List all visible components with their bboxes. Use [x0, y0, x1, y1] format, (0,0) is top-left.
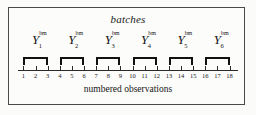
batch-symbol-superscript: bm	[221, 30, 228, 36]
batch-symbol-superscript: bm	[185, 30, 192, 36]
batch-symbol: Ybm6	[199, 30, 235, 52]
batch-symbol-subscript: 1	[39, 42, 42, 49]
batch-symbol-subscript: 5	[184, 42, 187, 49]
axis-tick-label: 18	[223, 72, 237, 80]
batch-symbol-subscript: 6	[221, 42, 224, 49]
batch-symbol-base: Ybm1	[32, 33, 39, 47]
batch-symbol-base: Ybm4	[141, 33, 148, 47]
batch-symbol-subscript: 3	[111, 42, 114, 49]
batch-symbol-superscript: bm	[112, 30, 119, 36]
batch-bracket	[60, 57, 84, 65]
batch-symbol: Ybm1	[18, 30, 54, 52]
figure-title: batches	[0, 13, 256, 25]
batch-bracket	[133, 57, 157, 65]
batch-symbol-base: Ybm5	[177, 33, 184, 47]
batch-symbol-superscript: bm	[148, 30, 155, 36]
batch-bracket	[205, 57, 229, 65]
batch-symbol-subscript: 2	[75, 42, 78, 49]
batch-symbol: Ybm3	[90, 30, 126, 52]
axis-caption: numbered observations	[0, 84, 256, 95]
batch-symbol: Ybm5	[163, 30, 199, 52]
batch-symbol-superscript: bm	[39, 30, 46, 36]
batch-bracket	[96, 57, 120, 65]
batch-symbol-subscript: 4	[148, 42, 151, 49]
batch-symbol-base: Ybm2	[68, 33, 75, 47]
batch-symbol-row: Ybm1Ybm2Ybm3Ybm4Ybm5Ybm6	[18, 30, 238, 52]
axis-label-row: 123456789101112131415161718	[18, 72, 238, 82]
batch-symbol-base: Ybm6	[214, 33, 221, 47]
batch-means-diagram: batches Ybm1Ybm2Ybm3Ybm4Ybm5Ybm6 1234567…	[0, 0, 256, 115]
batch-symbol-base: Ybm3	[105, 33, 112, 47]
batch-bracket	[169, 57, 193, 65]
batch-symbol: Ybm2	[54, 30, 90, 52]
batch-symbol: Ybm4	[127, 30, 163, 52]
batch-bracket	[23, 57, 47, 65]
batch-symbol-superscript: bm	[76, 30, 83, 36]
axis-line	[18, 70, 238, 71]
